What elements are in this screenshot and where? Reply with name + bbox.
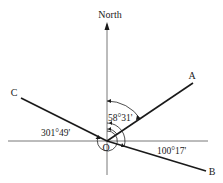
- arc-a-arrow-icon: [107, 99, 111, 103]
- angle-label-a: 58°31': [108, 113, 133, 123]
- ray-oa: [107, 83, 193, 141]
- north-label: North: [98, 9, 121, 20]
- bearing-diagram: North A B C O 58°31' 301°49' 100°17': [0, 0, 223, 183]
- arc-a-inner-arrow-icon: [108, 127, 111, 131]
- point-a-label: A: [188, 70, 196, 81]
- north-arrow-icon: [105, 22, 110, 30]
- angle-label-c: 301°49': [41, 128, 71, 138]
- point-c-label: C: [11, 87, 18, 98]
- point-b-label: B: [209, 166, 216, 177]
- angle-label-b: 100°17': [157, 146, 187, 156]
- origin-label: O: [102, 142, 109, 153]
